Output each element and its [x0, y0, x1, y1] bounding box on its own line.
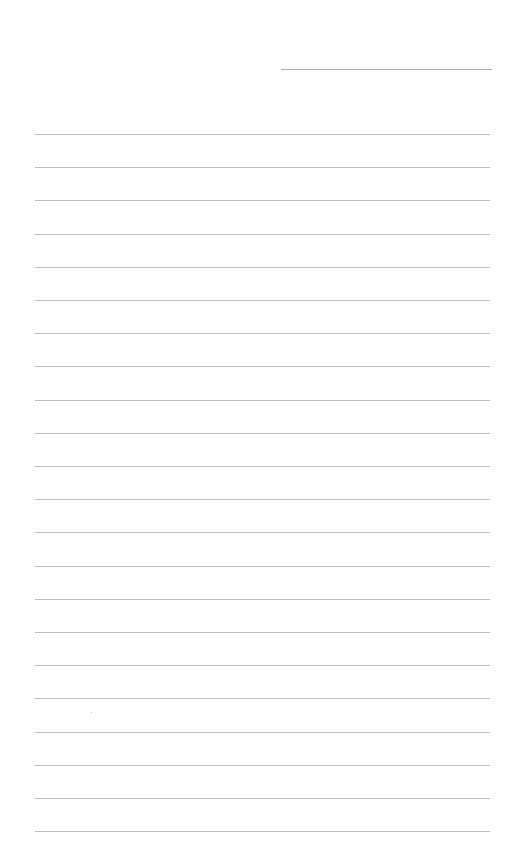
header-rule-line [281, 69, 492, 70]
rule-line [35, 566, 490, 567]
rule-line [35, 134, 490, 135]
rule-line [35, 698, 490, 699]
rule-line [35, 433, 490, 434]
rule-line [35, 466, 490, 467]
rule-line [35, 765, 490, 766]
rule-line [35, 798, 490, 799]
rule-line [35, 532, 490, 533]
rule-line [35, 400, 490, 401]
rule-line [35, 499, 490, 500]
rule-line [35, 267, 490, 268]
rule-line [35, 632, 490, 633]
rule-line [35, 831, 490, 832]
ruled-page [0, 0, 522, 858]
rule-line [35, 300, 490, 301]
rule-line [35, 732, 490, 733]
rule-line [35, 333, 490, 334]
rule-line [35, 599, 490, 600]
rule-line [35, 167, 490, 168]
rule-line [35, 234, 490, 235]
paper-speck [91, 712, 92, 713]
rule-line [35, 200, 490, 201]
rule-line [35, 366, 490, 367]
rule-line [35, 665, 490, 666]
